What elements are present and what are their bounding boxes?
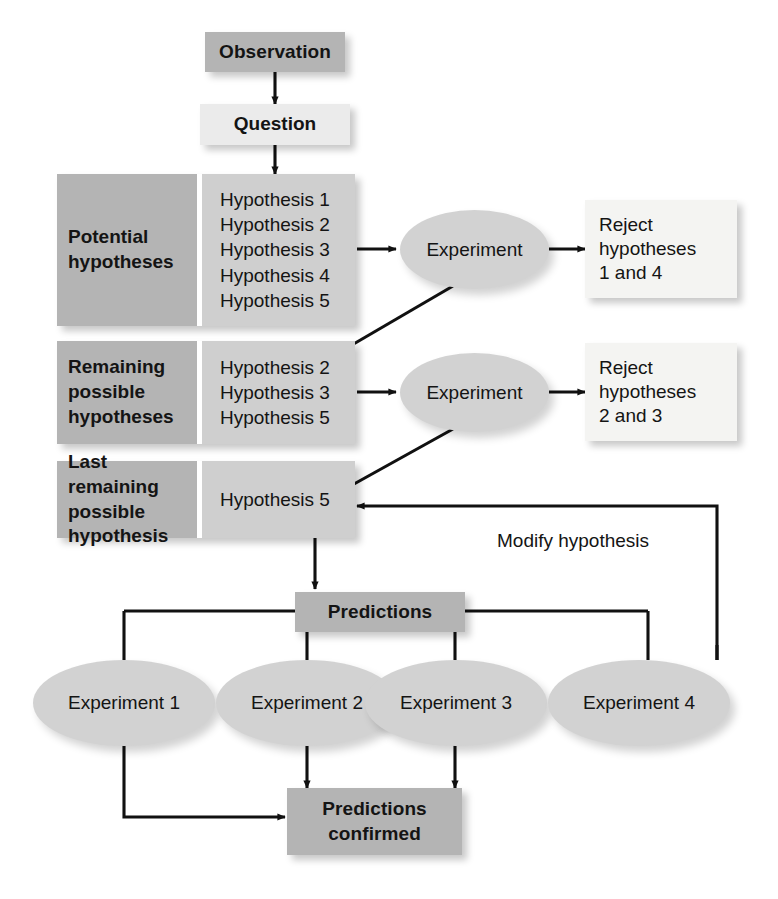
experiment-bottom-2-label: Experiment 2 [251,692,363,714]
flowchart-canvas: Observation Question Potential hypothese… [0,0,778,899]
row-remaining-label-line-2: possible [68,381,145,402]
row-potential-label-line-2: hypotheses [68,251,174,272]
predictions-confirmed-line-2: confirmed [328,822,421,846]
row-potential-label-line-1: Potential [68,226,148,247]
row-potential-hypotheses[interactable]: Potential hypotheses Hypothesis 1 Hypoth… [57,174,355,326]
question-label: Question [234,112,316,136]
predictions-label: Predictions [328,600,433,624]
hypothesis-item: Hypothesis 1 [220,187,355,212]
row-last-label-line-1: Last remaining [68,451,159,497]
predictions-confirmed-box[interactable]: Predictions confirmed [287,788,462,855]
row-last-label: Last remaining possible hypothesis [57,461,197,538]
row-potential-list: Hypothesis 1 Hypothesis 2 Hypothesis 3 H… [202,174,355,326]
reject-1-4-line-2: hypotheses [599,237,696,261]
hypothesis-item: Hypothesis 3 [220,237,355,262]
question-box[interactable]: Question [200,104,350,145]
predictions-box[interactable]: Predictions [295,592,465,632]
row-potential-label: Potential hypotheses [57,174,197,326]
experiment-bottom-3-label: Experiment 3 [400,692,512,714]
modify-hypothesis-label: Modify hypothesis [497,530,649,552]
row-remaining-hypotheses[interactable]: Remaining possible hypotheses Hypothesis… [57,341,355,444]
observation-label: Observation [219,40,331,64]
hypothesis-item: Hypothesis 2 [220,212,355,237]
experiment-ellipse-1[interactable]: Experiment [400,210,549,289]
experiment-bottom-4-label: Experiment 4 [583,692,695,714]
row-last-label-line-2: possible [68,501,145,522]
experiment-ellipse-bottom-3[interactable]: Experiment 3 [365,660,547,746]
hypothesis-item: Hypothesis 5 [220,487,355,512]
reject-1-4-line-1: Reject [599,213,653,237]
reject-1-4-line-3: 1 and 4 [599,261,662,285]
experiment-ellipse-bottom-4[interactable]: Experiment 4 [548,660,730,746]
hypothesis-item: Hypothesis 5 [220,405,355,430]
row-last-label-line-3: hypothesis [68,525,168,546]
hypothesis-item: Hypothesis 4 [220,263,355,288]
observation-box[interactable]: Observation [205,32,345,72]
arrow-experiment-to-remaining [345,286,453,349]
row-last-hypothesis[interactable]: Last remaining possible hypothesis Hypot… [57,461,355,538]
reject-2-3-line-2: hypotheses [599,380,696,404]
reject-2-3-line-1: Reject [599,356,653,380]
experiment-ellipse-bottom-1[interactable]: Experiment 1 [33,660,215,746]
arrow-experiment1-to-confirmed [124,745,285,817]
row-remaining-list: Hypothesis 2 Hypothesis 3 Hypothesis 5 [202,341,355,444]
reject-2-3-line-3: 2 and 3 [599,404,662,428]
reject-box-2-3[interactable]: Reject hypotheses 2 and 3 [585,343,737,441]
experiment-ellipse-2-label: Experiment [426,382,522,404]
experiment-ellipse-2[interactable]: Experiment [400,353,549,432]
row-remaining-label: Remaining possible hypotheses [57,341,197,444]
reject-box-1-4[interactable]: Reject hypotheses 1 and 4 [585,200,737,298]
hypothesis-item: Hypothesis 3 [220,380,355,405]
row-remaining-label-line-1: Remaining [68,356,165,377]
predictions-confirmed-line-1: Predictions [322,797,427,821]
experiment-bottom-1-label: Experiment 1 [68,692,180,714]
row-remaining-label-line-3: hypotheses [68,406,174,427]
row-last-list: Hypothesis 5 [202,461,355,538]
arrow-experiment-to-last [345,429,453,489]
hypothesis-item: Hypothesis 5 [220,288,355,313]
experiment-ellipse-1-label: Experiment [426,239,522,261]
hypothesis-item: Hypothesis 2 [220,355,355,380]
